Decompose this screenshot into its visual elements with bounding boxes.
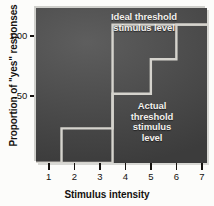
annotation-line-1: stimulus level xyxy=(86,23,202,34)
x-tick-label-6: 6 xyxy=(168,171,184,182)
x-axis-title: Stimulus intensity xyxy=(0,189,214,200)
x-tick-mark-4 xyxy=(125,163,127,170)
x-tick-label-5: 5 xyxy=(143,171,159,182)
annotation-line-3: level xyxy=(112,133,192,144)
x-tick-mark-1 xyxy=(48,163,50,170)
plot-area: Ideal thresholdstimulus level Actualthre… xyxy=(36,8,207,163)
x-axis: 1234567 Stimulus intensity xyxy=(0,163,214,206)
ideal-threshold-annotation: Ideal thresholdstimulus level xyxy=(86,12,202,33)
actual-threshold-annotation: Actualthresholdstimuluslevel xyxy=(112,101,192,144)
x-tick-mark-3 xyxy=(99,163,101,170)
x-tick-label-2: 2 xyxy=(66,171,82,182)
x-tick-mark-7 xyxy=(201,163,203,170)
x-tick-label-3: 3 xyxy=(92,171,108,182)
y-tick-label-.50: .50 xyxy=(14,90,27,101)
x-tick-label-1: 1 xyxy=(41,171,57,182)
y-tick-label-1.00: 1.00 xyxy=(9,30,27,41)
x-tick-label-7: 7 xyxy=(194,171,210,182)
x-tick-mark-5 xyxy=(150,163,152,170)
x-tick-label-4: 4 xyxy=(117,171,133,182)
x-tick-mark-6 xyxy=(176,163,178,170)
x-tick-mark-2 xyxy=(74,163,76,170)
chart-figure: Proportion of "yes" responses 1.00 .50 I… xyxy=(0,0,214,206)
